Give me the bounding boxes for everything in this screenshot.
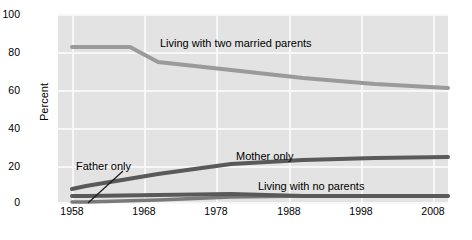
x-tick-label-1968: 1968 <box>114 206 174 217</box>
y-tick-label-60: 60 <box>0 85 20 95</box>
gridline-y-100 <box>58 14 448 16</box>
y-tick-label-20: 20 <box>0 161 20 171</box>
x-tick-label-1998: 1998 <box>331 206 391 217</box>
y-tick-label-40: 40 <box>0 123 20 133</box>
x-tick-label-1988: 1988 <box>259 206 319 217</box>
series-label-father-only: Father only <box>76 160 131 172</box>
gridline-x-1968 <box>144 14 146 204</box>
series-label-living-with-no-parents: Living with no parents <box>258 180 364 192</box>
gridline-x-1998 <box>361 14 363 204</box>
y-tick-label-0: 0 <box>0 197 20 207</box>
series-label-mother-only: Mother only <box>236 150 293 162</box>
series-label-living-with-two-married-parents: Living with two married parents <box>160 37 312 49</box>
gridline-x-1958 <box>72 14 74 204</box>
gridline-y-0 <box>58 202 448 204</box>
line-chart: Percent 100 80 60 40 20 0 1958 1968 1978… <box>0 0 472 240</box>
gridline-y-80 <box>58 52 448 54</box>
y-axis-title: Percent <box>38 42 50 162</box>
gridline-y-40 <box>58 128 448 130</box>
x-tick-label-1958: 1958 <box>42 206 102 217</box>
y-tick-label-80: 80 <box>0 47 20 57</box>
gridline-y-60 <box>58 90 448 92</box>
x-tick-label-1978: 1978 <box>186 206 246 217</box>
x-tick-label-2008: 2008 <box>403 206 463 217</box>
gridline-x-2008 <box>433 14 435 204</box>
y-tick-label-100: 100 <box>0 9 20 19</box>
